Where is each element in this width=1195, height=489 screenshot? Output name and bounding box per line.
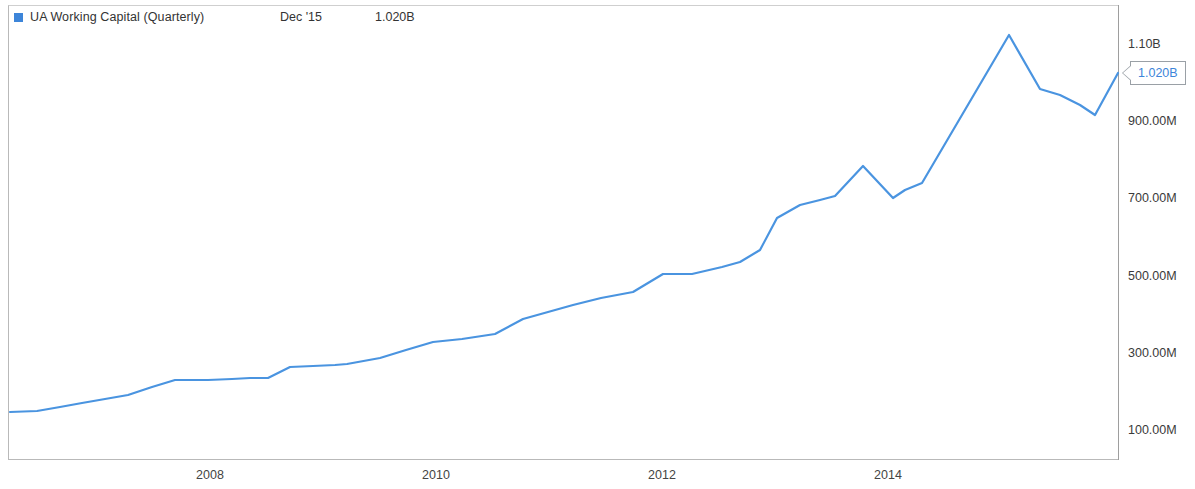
y-axis-tick-label: 500.00M: [1128, 269, 1177, 283]
legend-color-swatch: [14, 13, 23, 22]
callout-value-text: 1.020B: [1138, 66, 1178, 80]
y-axis-line: [1118, 5, 1119, 460]
plot-area: [8, 5, 1118, 460]
x-axis-tick-label: 2012: [648, 468, 676, 482]
x-axis-tick-label: 2010: [422, 468, 450, 482]
x-axis-tick-label: 2014: [874, 468, 902, 482]
y-axis-tick-label: 700.00M: [1128, 191, 1177, 205]
y-axis-tick-label: 300.00M: [1128, 346, 1177, 360]
y-axis-tick-label: 100.00M: [1128, 423, 1177, 437]
chart-legend: UA Working Capital (Quarterly): [14, 10, 204, 24]
legend-series-label: UA Working Capital (Quarterly): [30, 10, 204, 24]
legend-value-label: 1.020B: [375, 10, 415, 24]
callout-arrow-icon: [1123, 66, 1131, 80]
value-callout: 1.020B: [1130, 61, 1186, 85]
y-axis-tick-label: 1.10B: [1128, 37, 1161, 51]
x-axis-tick-label: 2008: [196, 468, 224, 482]
y-axis-tick-label: 900.00M: [1128, 114, 1177, 128]
chart-container: UA Working Capital (Quarterly) Dec '15 1…: [0, 0, 1195, 489]
legend-date-label: Dec '15: [280, 10, 322, 24]
